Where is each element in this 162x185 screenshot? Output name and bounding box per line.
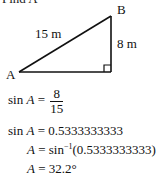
opposite-side-label: 8 m — [117, 36, 137, 52]
right-triangle-diagram — [0, 0, 162, 80]
vertex-b-label: B — [117, 2, 126, 18]
hypotenuse-label: 15 m — [35, 26, 61, 42]
right-angle-marker — [104, 65, 111, 72]
equation-line-2: sin A = 0.5333333333 — [8, 123, 123, 139]
equation-line-3: A = sin−1(0.5333333333) — [27, 142, 156, 158]
equation-line-4: A = 32.2° — [27, 161, 77, 177]
vertex-a-label: A — [6, 67, 15, 83]
equation-line-1: sin A = 815 — [8, 87, 63, 116]
